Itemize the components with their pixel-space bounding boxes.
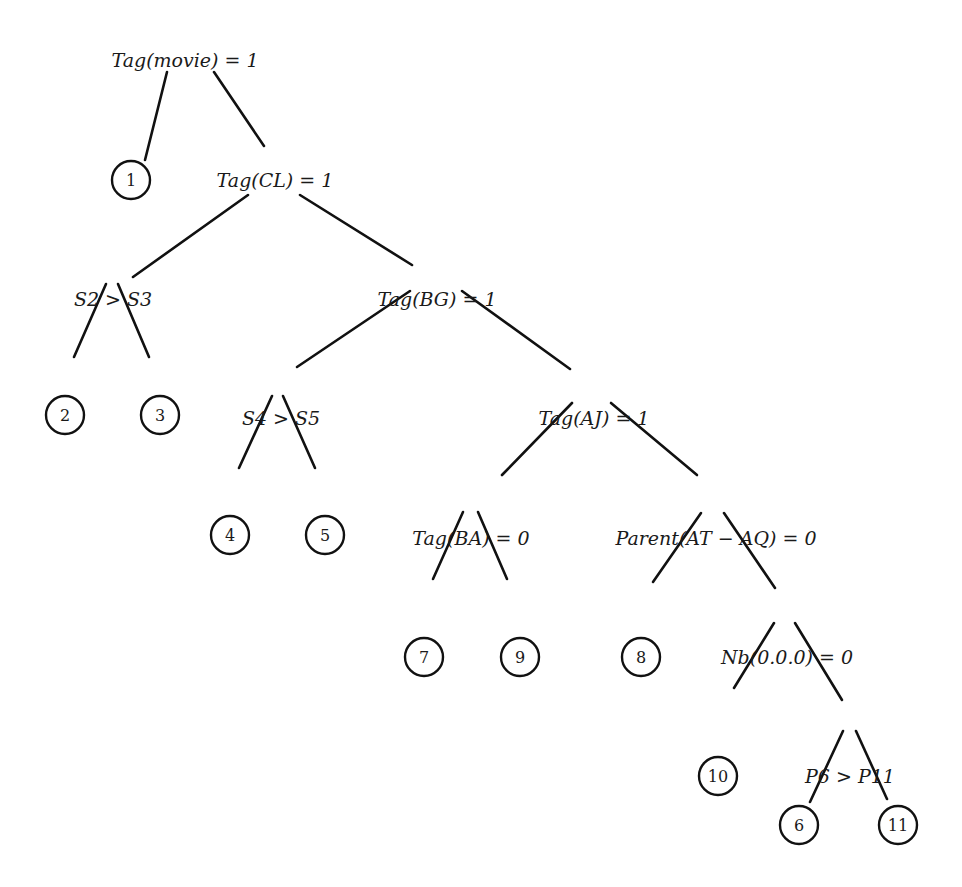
leaf-label: 3 [155,406,165,425]
leaf-label: 5 [320,526,330,545]
leaf-node-9: 9 [501,638,539,676]
test-condition-label: Parent(AT − AQ) = 0 [614,527,816,549]
test-condition-label: Tag(CL) = 1 [217,169,334,191]
leaf-label: 2 [60,406,70,425]
tree-edge-parent-nb000 [724,513,775,588]
leaf-node-4: 4 [211,516,249,554]
test-node-s4s5: S4 > S5 [242,407,320,429]
tree-edge-tagCL-s2s3 [133,195,248,277]
leaf-label: 9 [515,648,525,667]
test-node-tagBG: Tag(BG) = 1 [377,288,496,310]
decision-tree-diagram: Tag(movie) = 11Tag(CL) = 1S2 > S3Tag(BG)… [0,0,962,887]
tree-nodes: Tag(movie) = 11Tag(CL) = 1S2 > S3Tag(BG)… [46,49,917,844]
test-condition-label: Tag(BA) = 0 [412,527,529,549]
test-node-root: Tag(movie) = 1 [111,49,258,71]
leaf-label: 8 [636,648,646,667]
test-node-parent: Parent(AT − AQ) = 0 [614,527,816,549]
test-condition-label: Tag(movie) = 1 [111,49,258,71]
test-node-tagBA: Tag(BA) = 0 [412,527,529,549]
test-condition-label: Nb(0.0.0) = 0 [720,646,853,668]
test-condition-label: P6 > P11 [804,765,895,787]
tree-edge-root-tagCL [214,72,264,146]
test-node-nb000: Nb(0.0.0) = 0 [720,646,853,668]
test-node-p6p11: P6 > P11 [804,765,895,787]
leaf-node-8: 8 [622,638,660,676]
test-node-tagAJ: Tag(AJ) = 1 [539,407,650,429]
leaf-label: 7 [419,648,429,667]
leaf-label: 4 [225,526,235,545]
leaf-node-2: 2 [46,396,84,434]
test-node-tagCL: Tag(CL) = 1 [217,169,334,191]
leaf-node-7: 7 [405,638,443,676]
test-node-s2s3: S2 > S3 [74,288,152,310]
leaf-node-11: 11 [879,806,917,844]
leaf-node-6: 6 [780,806,818,844]
leaf-node-1: 1 [112,161,150,199]
leaf-label: 10 [708,767,728,786]
test-condition-label: Tag(AJ) = 1 [539,407,650,429]
tree-edge-tagCL-tagBG [300,195,412,265]
tree-edges [74,72,887,802]
leaf-node-3: 3 [141,396,179,434]
leaf-node-5: 5 [306,516,344,554]
leaf-label: 1 [126,171,136,190]
test-condition-label: S4 > S5 [242,407,320,429]
leaf-label: 6 [794,816,804,835]
leaf-node-10: 10 [699,757,737,795]
test-condition-label: S2 > S3 [74,288,152,310]
leaf-label: 11 [888,816,908,835]
tree-edge-root-L1 [145,72,167,160]
test-condition-label: Tag(BG) = 1 [377,288,496,310]
